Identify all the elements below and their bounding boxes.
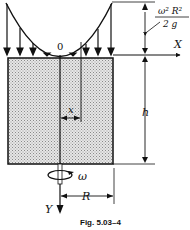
figure-caption: Fig. 5.03–4 <box>80 218 121 227</box>
x-dim-label: x <box>68 104 74 115</box>
h-label: h <box>142 106 149 119</box>
y-axis-arrowhead <box>57 205 64 214</box>
y-axis-label: Y <box>45 203 54 216</box>
origin-label: 0 <box>57 41 63 52</box>
x-axis-label: X <box>173 38 183 51</box>
omega-label: ω <box>78 170 87 183</box>
r-label: R <box>81 190 90 203</box>
head-denominator: 2 g <box>162 19 178 29</box>
shaft <box>58 164 62 184</box>
rotating-cylinder-diagram: 0 X Y x h R ω ω² R² 2 g Fig. 5.03–4 <box>0 0 190 230</box>
head-numerator: ω² R² <box>158 6 183 16</box>
